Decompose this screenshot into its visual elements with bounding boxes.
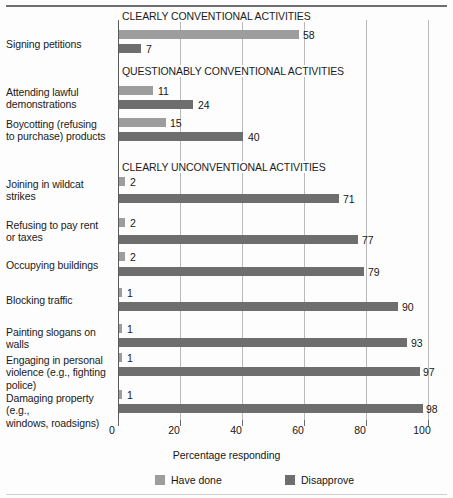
bar-have-done-occupying-buildings	[119, 252, 125, 261]
label-line: Engaging in personal	[6, 354, 114, 366]
gridline-40	[242, 20, 243, 420]
bar-have-done-painting-slogans-walls	[119, 324, 122, 333]
gridline-60	[304, 20, 305, 420]
value-disapprove-signing-petitions: 7	[146, 45, 152, 54]
bar-have-done-engaging-personal-violence	[119, 353, 122, 362]
label-line: strikes	[6, 190, 114, 202]
value-have-done-signing-petitions: 58	[303, 31, 314, 40]
bar-have-done-refusing-pay-rent-taxes	[119, 218, 125, 227]
bar-have-done-joining-wildcat-strikes	[119, 177, 125, 186]
value-have-done-occupying-buildings: 2	[130, 253, 136, 262]
xtick-mark-80	[366, 420, 367, 426]
label-line: Blocking traffic	[6, 294, 114, 306]
value-disapprove-refusing-pay-rent-taxes: 77	[362, 236, 373, 245]
value-have-done-painting-slogans-walls: 1	[127, 325, 133, 334]
group-header-clearly-unconventional: CLEARLY UNCONVENTIONAL ACTIVITIES	[122, 161, 329, 173]
category-label-painting-slogans-walls: Painting slogans on walls	[6, 326, 114, 351]
value-have-done-boycotting-products: 15	[170, 119, 181, 128]
label-line: violence (e.g., fighting	[6, 366, 114, 378]
bar-disapprove-joining-wildcat-strikes	[119, 194, 339, 203]
xtick-label-80: 80	[354, 424, 366, 436]
bar-have-done-damaging-property	[119, 390, 122, 399]
label-line: Attending lawful	[6, 86, 114, 98]
xtick-label-20: 20	[168, 424, 180, 436]
bar-have-done-blocking-traffic	[119, 288, 122, 297]
label-line: Occupying buildings	[6, 259, 114, 271]
bar-disapprove-occupying-buildings	[119, 267, 364, 276]
category-label-occupying-buildings: Occupying buildings	[6, 259, 114, 271]
bar-disapprove-painting-slogans-walls	[119, 338, 407, 347]
value-disapprove-attending-lawful-demonstrations: 24	[198, 101, 209, 110]
xtick-mark-40	[242, 420, 243, 426]
bar-chart-figure: CLEARLY CONVENTIONAL ACTIVITIES QUESTION…	[0, 0, 453, 498]
value-disapprove-boycotting-products: 40	[248, 133, 259, 142]
legend-item-disapprove: Disapprove	[285, 474, 354, 486]
plot-area	[118, 20, 428, 420]
category-label-boycotting-products: Boycotting (refusing to purchase) produc…	[6, 118, 114, 143]
value-disapprove-blocking-traffic: 90	[402, 303, 413, 312]
xtick-label-40: 40	[230, 424, 242, 436]
legend-label-disapprove: Disapprove	[301, 474, 354, 486]
legend-swatch-disapprove-icon	[285, 475, 295, 485]
label-line: or taxes	[6, 231, 114, 243]
chart-legend: Have done Disapprove	[0, 474, 453, 490]
legend-item-have-done: Have done	[155, 474, 222, 486]
category-label-joining-wildcat-strikes: Joining in wildcat strikes	[6, 178, 114, 203]
group-header-clearly-conventional: CLEARLY CONVENTIONAL ACTIVITIES	[122, 10, 314, 22]
label-line: Damaging property (e.g.,	[6, 392, 114, 417]
xtick-label-60: 60	[292, 424, 304, 436]
figure-top-rule	[6, 5, 447, 7]
bar-disapprove-refusing-pay-rent-taxes	[119, 235, 358, 244]
group-header-questionably-conventional: QUESTIONABLY CONVENTIONAL ACTIVITIES	[122, 65, 347, 77]
value-have-done-joining-wildcat-strikes: 2	[130, 178, 136, 187]
value-disapprove-occupying-buildings: 79	[368, 268, 379, 277]
gridline-80	[366, 20, 367, 420]
label-line: Painting slogans on	[6, 326, 114, 338]
category-label-blocking-traffic: Blocking traffic	[6, 294, 114, 306]
bar-disapprove-signing-petitions	[119, 44, 141, 53]
gridline-20	[180, 20, 181, 420]
category-label-engaging-personal-violence: Engaging in personal violence (e.g., fig…	[6, 354, 114, 391]
value-have-done-engaging-personal-violence: 1	[127, 354, 133, 363]
value-have-done-attending-lawful-demonstrations: 11	[158, 87, 169, 96]
bar-have-done-boycotting-products	[119, 118, 166, 127]
xtick-mark-100	[428, 420, 429, 426]
figure-bottom-rule	[6, 494, 447, 495]
value-disapprove-damaging-property: 98	[426, 405, 437, 414]
bar-have-done-attending-lawful-demonstrations	[119, 86, 153, 95]
bar-disapprove-blocking-traffic	[119, 302, 398, 311]
gridline-100	[428, 20, 429, 420]
bar-disapprove-engaging-personal-violence	[119, 367, 420, 376]
value-disapprove-engaging-personal-violence: 97	[423, 368, 434, 377]
label-line: to purchase) products	[6, 130, 114, 142]
label-line: Refusing to pay rent	[6, 219, 114, 231]
label-line: demonstrations	[6, 98, 114, 110]
label-line: walls	[6, 338, 114, 350]
legend-label-have-done: Have done	[171, 474, 222, 486]
x-axis-title: Percentage responding	[0, 449, 453, 461]
xtick-mark-60	[304, 420, 305, 426]
label-line: police)	[6, 379, 114, 391]
category-label-attending-lawful-demonstrations: Attending lawful demonstrations	[6, 86, 114, 111]
label-line: Joining in wildcat	[6, 178, 114, 190]
label-line: Signing petitions	[6, 38, 114, 50]
category-label-signing-petitions: Signing petitions	[6, 38, 114, 50]
value-disapprove-painting-slogans-walls: 93	[411, 339, 422, 348]
xtick-mark-20	[180, 420, 181, 426]
value-disapprove-joining-wildcat-strikes: 71	[343, 195, 354, 204]
category-label-damaging-property: Damaging property (e.g., windows, roadsi…	[6, 392, 114, 429]
value-have-done-damaging-property: 1	[127, 391, 133, 400]
value-have-done-blocking-traffic: 1	[127, 289, 133, 298]
xtick-mark-0	[118, 420, 119, 426]
legend-swatch-have-done-icon	[155, 475, 165, 485]
label-line: Boycotting (refusing	[6, 118, 114, 130]
category-label-refusing-pay-rent-taxes: Refusing to pay rent or taxes	[6, 219, 114, 244]
bar-disapprove-damaging-property	[119, 404, 423, 413]
bar-disapprove-boycotting-products	[119, 132, 243, 141]
bar-disapprove-attending-lawful-demonstrations	[119, 100, 193, 109]
label-line: windows, roadsigns)	[6, 417, 114, 429]
value-have-done-refusing-pay-rent-taxes: 2	[130, 219, 136, 228]
bar-have-done-signing-petitions	[119, 30, 299, 39]
